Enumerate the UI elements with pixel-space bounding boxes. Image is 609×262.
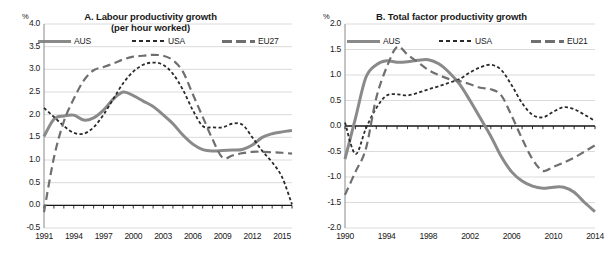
series-line-eu21	[345, 47, 595, 195]
series-line-usa	[44, 63, 292, 205]
panel-a-plot	[0, 0, 301, 262]
panel-b-plot	[301, 0, 602, 262]
panel-b: B. Total factor productivity growth % AU…	[301, 0, 602, 262]
panel-a: A. Labour productivity growth (per hour …	[0, 0, 301, 262]
series-line-usa	[345, 65, 595, 154]
series-line-aus	[345, 59, 595, 211]
